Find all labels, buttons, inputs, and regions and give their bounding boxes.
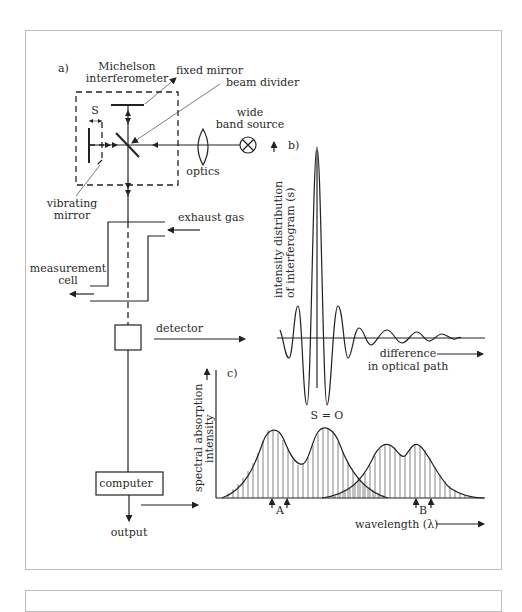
source-label-line2: band source	[216, 118, 285, 131]
cell-label-line2: cell	[58, 274, 78, 287]
vibrating-mirror-leader	[76, 165, 100, 196]
panel-a-label: a)	[58, 62, 69, 75]
detector-label: detector	[156, 322, 204, 335]
computer-label: computer	[99, 477, 153, 490]
marker-a-label: A	[275, 504, 285, 517]
vibrating-mirror-corner	[96, 160, 102, 166]
panel-c-label: c)	[227, 367, 237, 380]
panel-c-ylabel-line2: intensity	[203, 414, 216, 463]
panel-b-xlabel-line1: difference	[380, 347, 436, 360]
panel-a: a) Michelson interferometer fixed mirror…	[30, 60, 300, 539]
optics-label: optics	[186, 165, 220, 178]
output-label: output	[111, 526, 148, 539]
panel-b-ylabel-line2: of interferogram (s)	[284, 188, 297, 298]
beam-arrow-in	[152, 142, 158, 148]
beam-divider-leader	[132, 84, 220, 143]
vibrating-label-line2: mirror	[54, 209, 91, 222]
detector-box	[115, 325, 141, 350]
exhaust-gas-label: exhaust gas	[178, 211, 245, 224]
marker-b-label: B	[419, 504, 427, 517]
panel-c: c) spectral absorption intensity	[192, 367, 485, 531]
band-b-curve	[322, 444, 484, 498]
panel-b-xlabel-line2: in optical path	[368, 360, 449, 373]
panel-b: b) intensity distribution of interferogr…	[272, 139, 485, 422]
michelson-label-line2: interferometer	[86, 72, 169, 85]
optics-lens	[198, 129, 208, 165]
s-label: S	[91, 104, 99, 117]
s-equals-o-label: S = O	[311, 409, 344, 422]
beam-divider-label: beam divider	[226, 76, 300, 89]
panel-c-xlabel: wavelength (λ)	[355, 518, 438, 531]
panel-b-label: b)	[288, 139, 299, 152]
